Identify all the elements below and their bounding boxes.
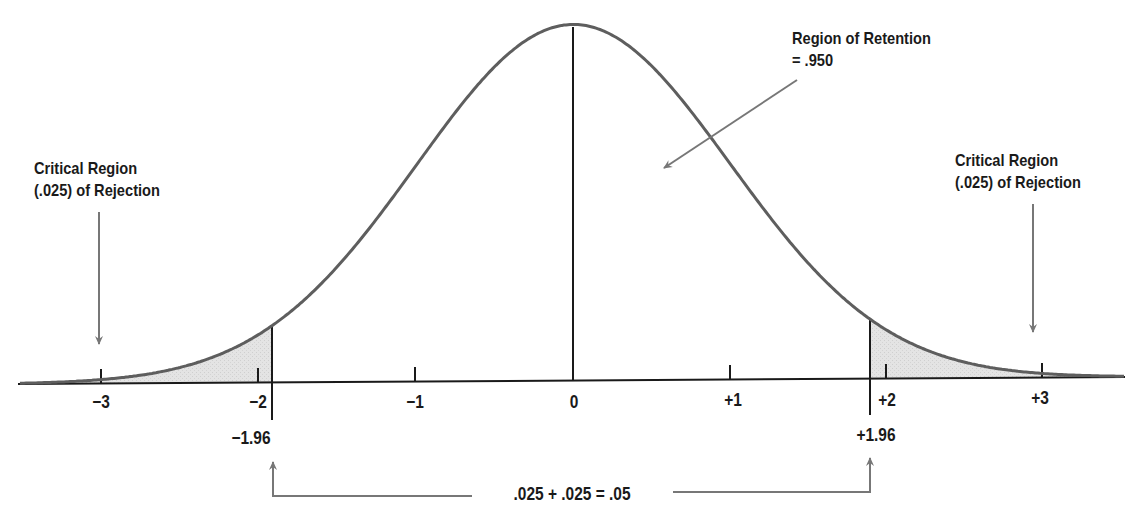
retention-region-arrow [664, 80, 797, 168]
bracket-left-arm [273, 462, 472, 496]
tick-label-plus-3: +3 [1031, 388, 1049, 408]
tick-label-minus-1: −1 [406, 392, 424, 412]
right-critical-region-label-line1: Critical Region [955, 150, 1081, 172]
tick-label-zero: 0 [570, 392, 579, 412]
tick-label-plus-1: +1 [724, 390, 742, 410]
critical-value-label-right: +1.96 [856, 425, 895, 445]
left-critical-region-label: Critical Region (.025) of Rejection [34, 158, 160, 202]
retention-region-label-line2: = .950 [792, 50, 931, 72]
critical-value-label-left: −1.96 [231, 428, 270, 448]
bracket-right-arm [673, 458, 870, 492]
tick-label-minus-2: −2 [249, 392, 267, 412]
left-critical-region-label-line2: (.025) of Rejection [34, 180, 160, 202]
right-critical-region-label: Critical Region (.025) of Rejection [955, 150, 1081, 194]
normal-distribution-figure [0, 0, 1139, 521]
tick-label-minus-3: −3 [92, 392, 110, 412]
alpha-sum-label: .025 + .025 = .05 [513, 484, 630, 504]
retention-region-label: Region of Retention = .950 [792, 28, 931, 72]
right-critical-region-label-line2: (.025) of Rejection [955, 172, 1081, 194]
left-critical-region-label-line1: Critical Region [34, 158, 160, 180]
retention-region-label-line1: Region of Retention [792, 28, 931, 50]
tick-label-plus-2: +2 [878, 390, 896, 410]
